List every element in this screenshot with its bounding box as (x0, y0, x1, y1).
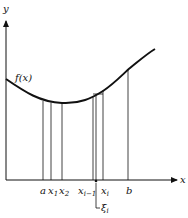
y-axis-label: y (3, 4, 9, 14)
tick-label-b: b (126, 186, 132, 196)
curve-label: f(x) (15, 73, 32, 83)
tick-label-x2: x2 (59, 186, 69, 198)
riemann-sum-diagram: y x f(x) a x1 x2 xi−1 xi b ξi (0, 0, 188, 218)
tick-label-a: a (40, 186, 46, 196)
xi-point-label: ξi (101, 203, 109, 215)
xi-point-marker (95, 180, 98, 183)
tick-label-xi: xi (101, 186, 109, 198)
x-axis-label: x (180, 175, 186, 185)
tick-label-x1: x1 (48, 186, 58, 198)
tick-label-xi-minus-1: xi−1 (78, 186, 96, 198)
xi-pointer (96, 183, 100, 208)
partition-lines (43, 69, 128, 180)
